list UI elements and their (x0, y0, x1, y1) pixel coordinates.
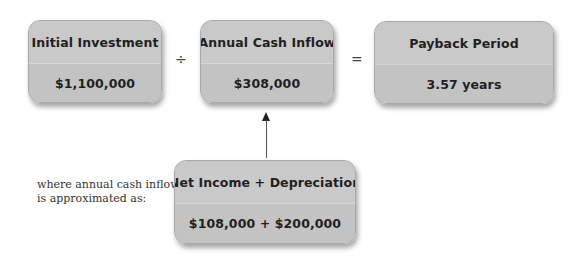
annual-cash-inflow-box: Annual Cash Inflow $308,000 (200, 20, 334, 103)
box-header: Initial Investment (29, 21, 161, 63)
connector-line (266, 120, 267, 158)
note-line-2: is approximated as: (37, 192, 180, 206)
divide-operator: ÷ (175, 51, 187, 67)
box-title: Initial Investment (32, 35, 159, 50)
box-body: $308,000 (201, 63, 333, 102)
note-line-1: where annual cash inflow (37, 178, 180, 192)
box-body: $108,000 + $200,000 (175, 203, 355, 243)
box-body: 3.57 years (375, 64, 553, 103)
box-value: 3.57 years (427, 77, 502, 92)
net-income-depreciation-box: Net Income + Depreciation $108,000 + $20… (174, 160, 356, 244)
initial-investment-box: Initial Investment $1,100,000 (28, 20, 162, 103)
box-value: $308,000 (234, 76, 300, 91)
box-title: Payback Period (409, 36, 519, 51)
payback-period-box: Payback Period 3.57 years (374, 21, 554, 104)
box-header: Payback Period (375, 22, 553, 64)
box-header: Annual Cash Inflow (201, 21, 333, 63)
box-value: $108,000 + $200,000 (189, 216, 341, 231)
box-header: Net Income + Depreciation (175, 161, 355, 203)
box-title: Net Income + Depreciation (174, 175, 356, 190)
box-title: Annual Cash Inflow (200, 35, 334, 50)
box-body: $1,100,000 (29, 63, 161, 102)
approximation-note: where annual cash inflow is approximated… (37, 178, 180, 206)
box-value: $1,100,000 (55, 76, 135, 91)
equals-operator: = (351, 51, 363, 67)
